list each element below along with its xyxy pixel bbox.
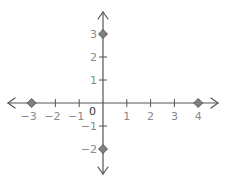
y-tick-label: 1 [90,74,97,87]
origin-label: 0 [89,105,96,118]
x-tick-label: −3 [20,110,36,123]
x-tick-label: −2 [44,110,60,123]
x-tick-label: 3 [171,110,178,123]
axes [8,12,218,174]
y-tick-label: −1 [81,120,97,133]
x-tick-label: 2 [147,110,154,123]
ticks [32,34,199,149]
coordinate-plane: −3−2−11234321−1−20 [0,0,228,185]
y-tick-label: 2 [90,51,97,64]
x-tick-label: 1 [123,110,130,123]
y-tick-label: 3 [90,28,97,41]
points [27,30,203,154]
tick-labels: −3−2−11234321−1−20 [20,28,201,156]
point-marker [99,145,108,154]
y-tick-label: −2 [81,143,97,156]
point-marker [27,99,36,108]
x-tick-label: 4 [195,110,202,123]
point-marker [99,30,108,39]
point-marker [194,99,203,108]
